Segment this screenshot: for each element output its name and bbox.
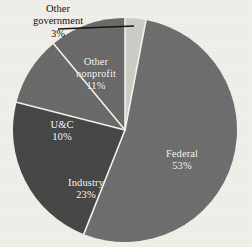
slice-label-other-government-line2: government bbox=[4, 15, 112, 27]
slice-label-other-government-value: 3% bbox=[4, 28, 112, 40]
slice-label-other-government: Other government 3% bbox=[4, 3, 112, 40]
pie-chart: Federal 53% Industry 23% U&C 10% Other n… bbox=[0, 0, 252, 247]
slice-label-other-government-line1: Other bbox=[4, 3, 112, 15]
